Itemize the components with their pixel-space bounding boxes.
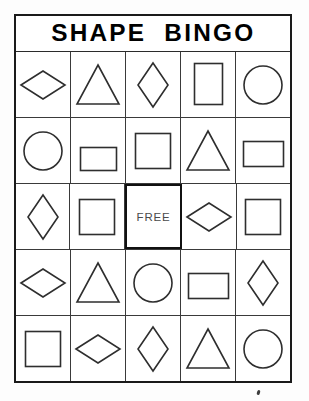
diamond-wide-icon [19, 68, 67, 102]
bingo-cell-triangle[interactable] [181, 118, 236, 183]
bingo-row [16, 316, 290, 381]
diamond-wide-icon [19, 266, 67, 300]
bingo-cell-diamond-wide[interactable] [182, 184, 236, 249]
square-icon [244, 198, 282, 236]
bingo-cell-rectangle-portrait[interactable] [181, 52, 236, 117]
bingo-cell-diamond-tall[interactable] [126, 316, 181, 381]
bingo-cell-circle[interactable] [16, 118, 71, 183]
triangle-icon [185, 327, 231, 370]
bingo-cell-square[interactable] [237, 184, 290, 249]
bingo-row [16, 52, 290, 118]
diamond-wide-icon [74, 332, 122, 366]
bingo-cell-diamond-wide[interactable] [71, 316, 126, 381]
triangle-icon [75, 63, 121, 106]
diamond-tall-icon [26, 193, 60, 241]
diamond-tall-icon [136, 61, 170, 109]
scan-artifact-speck [256, 390, 260, 396]
bingo-cell-rectangle-landscape[interactable] [236, 118, 290, 183]
rectangle-landscape-small-icon [79, 146, 118, 172]
bingo-cell-triangle[interactable] [71, 250, 126, 315]
bingo-cell-circle[interactable] [236, 316, 290, 381]
circle-icon [22, 130, 64, 172]
bingo-cell-square[interactable] [126, 118, 181, 183]
bingo-cell-diamond-wide[interactable] [16, 250, 71, 315]
square-icon [134, 132, 172, 170]
rectangle-portrait-icon [193, 62, 224, 106]
bingo-cell-diamond-tall[interactable] [126, 52, 181, 117]
rectangle-landscape-icon [187, 272, 230, 300]
diamond-tall-icon [246, 259, 280, 307]
circle-icon [242, 328, 284, 370]
card-title-band: SHAPE BINGO [16, 16, 290, 52]
bingo-cell-triangle[interactable] [181, 316, 236, 381]
page-title: SHAPE BINGO [51, 22, 255, 45]
bingo-cell-rectangle-landscape-small[interactable] [71, 118, 126, 183]
bingo-cell-free[interactable]: FREE [125, 184, 182, 249]
bingo-row: FREE [16, 184, 290, 250]
circle-icon [242, 64, 284, 106]
bingo-row [16, 118, 290, 184]
square-icon [24, 330, 62, 368]
bingo-card: SHAPE BINGO FREE [14, 14, 292, 383]
bingo-cell-diamond-tall[interactable] [16, 184, 70, 249]
diamond-tall-icon [136, 325, 170, 373]
circle-icon [132, 262, 174, 304]
bingo-cell-diamond-tall[interactable] [236, 250, 290, 315]
bingo-grid: FREE [16, 52, 290, 381]
square-icon [78, 198, 116, 236]
triangle-icon [75, 261, 121, 304]
bingo-cell-circle[interactable] [126, 250, 181, 315]
bingo-cell-triangle[interactable] [71, 52, 126, 117]
bingo-cell-square[interactable] [16, 316, 71, 381]
diamond-wide-icon [185, 200, 233, 234]
bingo-cell-square[interactable] [70, 184, 124, 249]
bingo-cell-diamond-wide[interactable] [16, 52, 71, 117]
bingo-cell-rectangle-landscape[interactable] [181, 250, 236, 315]
rectangle-landscape-icon [242, 140, 285, 168]
triangle-icon [185, 129, 231, 172]
bingo-cell-circle[interactable] [236, 52, 290, 117]
free-space-label: FREE [137, 211, 171, 223]
bingo-row [16, 250, 290, 316]
